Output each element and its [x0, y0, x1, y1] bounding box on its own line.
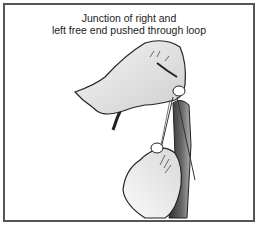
upper-hand	[75, 41, 185, 114]
hands-tying-tie-illustration	[5, 5, 253, 220]
figure-frame: Junction of right and left free end push…	[3, 3, 255, 222]
lower-hand	[123, 143, 181, 218]
